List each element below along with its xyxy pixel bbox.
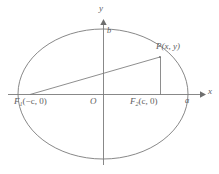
x-axis-label: x: [208, 87, 212, 96]
semi-major-axis-label: a: [185, 96, 189, 105]
point-p-coords: (x, y): [162, 41, 180, 51]
focus-right-coords: (c, 0): [139, 96, 158, 106]
ellipse-figure: y x b a O F1(−c, 0) F2(c, 0) P(x, y): [0, 0, 219, 174]
y-axis-label: y: [99, 4, 103, 13]
semi-minor-axis-label: b: [107, 26, 111, 35]
segment-f1-to-p: [30, 57, 160, 95]
focus-left-coords: (−c, 0): [23, 96, 47, 106]
x-axis-arrowhead-icon: [200, 91, 206, 97]
point-p-marker: [159, 56, 161, 58]
focus-right-label: F2(c, 0): [130, 97, 158, 107]
y-axis-arrowhead-icon: [100, 19, 106, 25]
origin-label: O: [90, 97, 97, 106]
point-p-label: P(x, y): [156, 42, 180, 51]
focus-left-label: F1(−c, 0): [14, 97, 47, 107]
